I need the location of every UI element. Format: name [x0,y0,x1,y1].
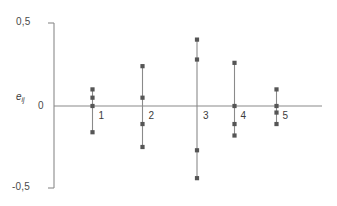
data-point-marker [195,148,199,152]
data-series-group [90,38,278,181]
y-axis-title: eij [16,91,25,103]
data-point-marker [140,64,144,68]
data-point-marker [90,104,94,108]
chart-figure: 0,5 0 -0,5 eij 1 2 3 4 5 [0,0,337,206]
data-point-marker [195,176,199,180]
data-point-marker [274,87,278,91]
data-point-marker [232,122,236,126]
data-point-marker [90,130,94,134]
group-label-1: 1 [99,110,105,121]
data-point-marker [90,96,94,100]
y-axis-tick-label-top: 0,5 [16,16,31,27]
chart-canvas [0,0,337,206]
data-group-2 [140,64,144,149]
y-axis-tick-label-bottom: -0,5 [12,181,30,192]
data-point-marker [274,104,278,108]
data-point-marker [232,104,236,108]
y-axis-title-subscript: ij [22,96,25,103]
data-point-marker [195,38,199,42]
data-group-3 [195,38,199,181]
data-group-4 [232,61,236,138]
data-point-marker [274,110,278,114]
y-axis-tick-label-zero: 0 [38,100,44,111]
data-point-marker [195,57,199,61]
data-group-1 [90,87,94,134]
data-point-marker [90,87,94,91]
data-point-marker [232,133,236,137]
data-point-marker [140,145,144,149]
data-point-marker [140,122,144,126]
data-point-marker [140,96,144,100]
group-label-5: 5 [283,110,289,121]
data-point-marker [274,122,278,126]
plot-area: 0,5 0 -0,5 eij 1 2 3 4 5 [0,0,337,206]
group-label-3: 3 [203,110,209,121]
group-label-4: 4 [241,110,247,121]
group-label-2: 2 [149,110,155,121]
axes [48,23,322,188]
data-group-5 [274,87,278,126]
data-point-marker [232,61,236,65]
